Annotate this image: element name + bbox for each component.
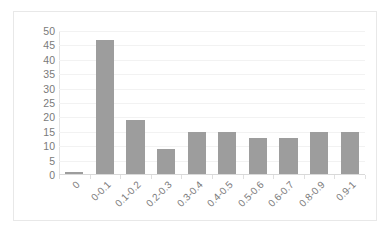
x-axis-tick-mark (90, 175, 91, 179)
bar-slot (273, 31, 304, 175)
bar-chart: 50454035302520151050 00-0.10.1-0.20.2-0.… (13, 11, 377, 221)
y-axis-tick-label: 40 (15, 55, 55, 65)
x-axis-tick-mark (334, 175, 335, 179)
x-axis-tick-slot: 0.8-0.9 (304, 175, 335, 221)
bar-slot (304, 31, 335, 175)
y-axis-tick-label: 35 (15, 69, 55, 79)
x-axis-tick-mark (59, 175, 60, 179)
x-axis-tick-label: 0.9-1 (334, 179, 358, 203)
bar-slot (151, 31, 182, 175)
x-axis-tick-label: 0-0.1 (89, 179, 113, 203)
x-axis-tick-label: 0 (70, 179, 82, 191)
x-axis-tick-mark (304, 175, 305, 179)
x-axis-tick-mark (181, 175, 182, 179)
bar (279, 138, 297, 175)
y-axis-tick-labels: 50454035302520151050 (14, 31, 55, 175)
bar (249, 138, 267, 175)
bar (218, 132, 236, 175)
x-axis-tick-slot: 0 (59, 175, 90, 221)
x-axis-tick-mark (273, 175, 274, 179)
bar (341, 132, 359, 175)
y-axis-tick-label: 25 (15, 98, 55, 108)
y-axis-tick-label: 50 (15, 26, 55, 36)
x-axis-tick-mark (365, 175, 366, 179)
y-axis-tick-label: 20 (15, 112, 55, 122)
y-axis-tick-label: 10 (15, 141, 55, 151)
bar-slot (181, 31, 212, 175)
bar (126, 120, 144, 175)
bar-slot (120, 31, 151, 175)
y-axis-tick-label: 15 (15, 127, 55, 137)
bar-slot (90, 31, 121, 175)
bar-slot (59, 31, 90, 175)
plot-area (59, 31, 365, 175)
x-axis-tick-mark (151, 175, 152, 179)
x-axis-tick-mark (212, 175, 213, 179)
bar-slot (212, 31, 243, 175)
bar (157, 149, 175, 175)
bar (188, 132, 206, 175)
y-axis-tick-label: 45 (15, 40, 55, 50)
bar (96, 40, 114, 175)
y-axis-tick-label: 30 (15, 84, 55, 94)
y-axis-tick-label: 5 (15, 156, 55, 166)
x-axis-tick-mark (120, 175, 121, 179)
x-axis-tick-mark (243, 175, 244, 179)
bar-slot (334, 31, 365, 175)
bar (310, 132, 328, 175)
x-axis-tick-slot: 0.9-1 (334, 175, 365, 221)
bar-slot (243, 31, 274, 175)
x-axis-tick-labels: 00-0.10.1-0.20.2-0.30.3-0.40.4-0.50.5-0.… (59, 175, 365, 221)
y-axis-tick-label: 0 (15, 170, 55, 180)
